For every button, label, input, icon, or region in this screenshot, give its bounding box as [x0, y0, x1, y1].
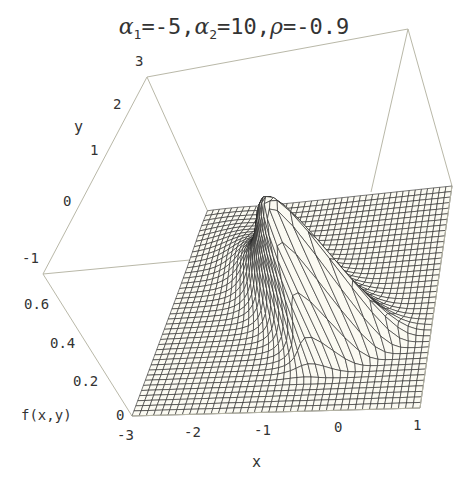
x-tick-0: 0 [334, 420, 342, 434]
surface-mesh [132, 186, 452, 416]
x-tick-minus1: -1 [254, 423, 271, 437]
x-tick-1: 1 [413, 418, 421, 432]
rho-symbol: ρ [270, 14, 283, 39]
x-tick-minus2: -2 [184, 425, 201, 439]
z-tick-0-4: 0.4 [50, 336, 75, 350]
z-tick-0: 0 [116, 408, 124, 422]
y-tick-1: 1 [90, 143, 98, 157]
y-tick-minus1: -1 [22, 251, 39, 265]
z-tick-0-2: 0.2 [73, 374, 98, 388]
z-axis-label: f(x,y) [21, 408, 72, 422]
x-axis-label: x [252, 455, 261, 470]
alpha1-symbol: α [119, 14, 134, 39]
chart-title: α1=-5,α2=10,ρ=-0.9 [0, 16, 468, 41]
y-tick-2: 2 [113, 97, 121, 111]
z-tick-0-6: 0.6 [24, 297, 49, 311]
alpha2-symbol: α [194, 14, 209, 39]
y-tick-3: 3 [135, 54, 143, 68]
y-axis-label: y [74, 120, 83, 135]
x-tick-minus3: -3 [117, 428, 134, 442]
y-tick-0: 0 [63, 194, 71, 208]
